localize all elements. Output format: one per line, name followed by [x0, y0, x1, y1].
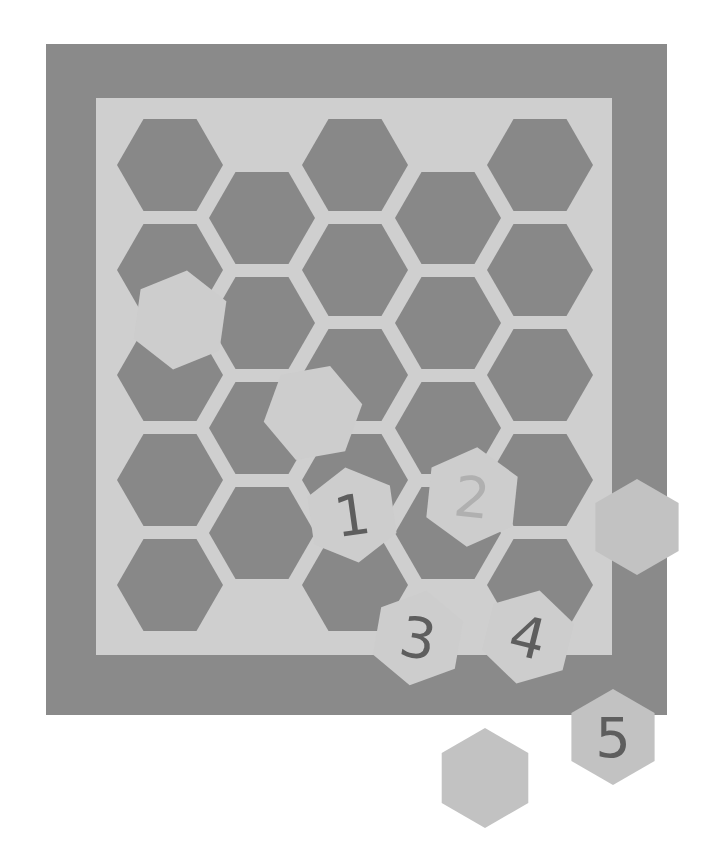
piece-number-label: 5	[595, 705, 631, 770]
hexagon-puzzle-scene: 12345	[0, 0, 717, 851]
hexagon-piece-blank-d[interactable]	[442, 728, 529, 828]
hexagon-piece-shape	[442, 728, 529, 828]
piece-number-label: 2	[451, 463, 493, 531]
